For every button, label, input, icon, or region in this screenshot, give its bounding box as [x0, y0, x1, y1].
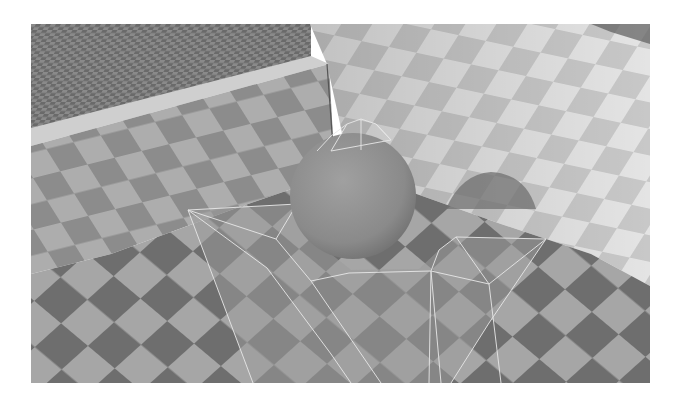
render-viewport [31, 24, 650, 383]
